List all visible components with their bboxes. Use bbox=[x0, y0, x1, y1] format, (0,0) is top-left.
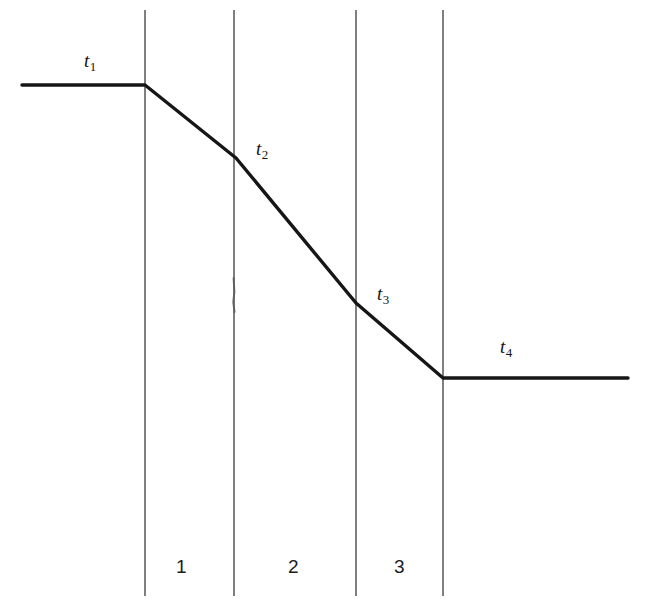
zone-label-1: 1 bbox=[176, 557, 187, 576]
ink-artifact-mark bbox=[233, 278, 234, 312]
zone-label-3: 3 bbox=[394, 557, 405, 576]
segment-label-t4: t4 bbox=[500, 337, 512, 359]
figure-canvas: t1 t2 t3 t4 1 2 3 bbox=[0, 0, 645, 613]
profile-curve bbox=[22, 85, 628, 378]
segment-label-t1: t1 bbox=[84, 51, 96, 73]
segment-label-t3-subscript: 3 bbox=[382, 292, 389, 307]
segment-label-t2-subscript: 2 bbox=[261, 147, 268, 162]
diagram-svg bbox=[0, 0, 645, 613]
segment-label-t2: t2 bbox=[256, 139, 268, 161]
segment-label-t3: t3 bbox=[377, 284, 389, 306]
segment-label-t4-subscript: 4 bbox=[505, 345, 512, 360]
segment-label-t1-subscript: 1 bbox=[89, 59, 96, 74]
zone-label-2: 2 bbox=[288, 557, 299, 576]
divider-lines-group bbox=[145, 10, 443, 596]
